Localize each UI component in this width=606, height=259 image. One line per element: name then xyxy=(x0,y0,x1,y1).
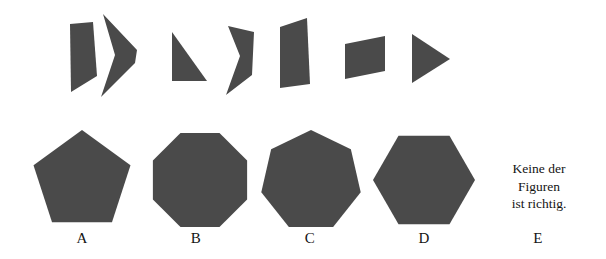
option-shape-d[interactable] xyxy=(373,136,475,224)
option-shape-b[interactable] xyxy=(153,133,247,227)
option-e-none-of-the-figures-text[interactable]: Keine der Figuren ist richtig. xyxy=(483,160,595,213)
none-text-line-3: ist richtig. xyxy=(483,195,595,213)
option-label-e[interactable]: E xyxy=(518,230,558,246)
option-label-a[interactable]: A xyxy=(62,230,102,246)
none-text-line-1: Keine der xyxy=(483,160,595,178)
options-svg xyxy=(0,0,606,259)
option-shape-c[interactable] xyxy=(261,130,360,227)
option-label-d[interactable]: D xyxy=(404,230,444,246)
option-label-c[interactable]: C xyxy=(290,230,330,246)
option-label-b[interactable]: B xyxy=(176,230,216,246)
puzzle-page: Keine der Figuren ist richtig. A B C D E xyxy=(0,0,606,259)
answer-options-row xyxy=(0,0,606,259)
option-shape-a[interactable] xyxy=(34,130,131,222)
none-text-line-2: Figuren xyxy=(483,178,595,196)
